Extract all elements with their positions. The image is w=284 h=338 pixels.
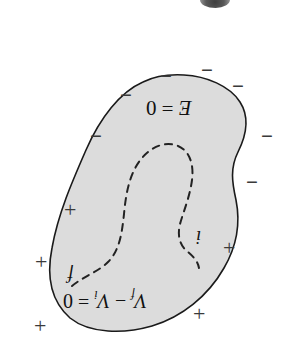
potential-difference-label: Vf − Vi = 0	[63, 289, 147, 311]
potential-subscript-final: f	[131, 288, 134, 302]
negative-charge-sign: −	[160, 66, 172, 87]
negative-charge-sign: −	[261, 126, 273, 147]
negative-charge-sign: −	[120, 85, 132, 106]
electric-field-symbol: E	[179, 96, 192, 120]
electric-field-label: E = 0	[146, 97, 192, 118]
positive-charge-sign: +	[223, 237, 235, 259]
point-f-label: f	[68, 266, 73, 285]
point-i-label: i	[196, 228, 201, 247]
electric-field-equation-rest: = 0	[146, 96, 179, 120]
potential-symbol-initial: V	[98, 290, 110, 312]
potential-subscript-initial: i	[94, 288, 97, 302]
negative-charge-sign: −	[232, 76, 244, 97]
conductor-diagram-svg	[0, 0, 284, 338]
negative-charge-sign: −	[90, 126, 102, 147]
positive-charge-sign: +	[193, 303, 205, 325]
potential-minus-operator: −	[110, 290, 131, 312]
potential-equals-zero: = 0	[63, 290, 94, 312]
potential-symbol-final: V	[135, 290, 147, 312]
negative-charge-sign: −	[246, 172, 258, 193]
figure-root: −−−−−−− +++++ E = 0 Vf − Vi = 0 f i	[0, 0, 284, 338]
positive-charge-sign: +	[64, 199, 76, 221]
negative-charge-sign: −	[201, 60, 213, 81]
positive-charge-sign: +	[35, 251, 47, 273]
positive-charge-sign: +	[34, 315, 46, 337]
